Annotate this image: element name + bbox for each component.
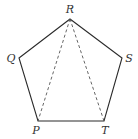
pentagon-diagram: R S T P Q <box>0 0 138 139</box>
vertex-label-R: R <box>65 3 74 16</box>
pentagon-outline <box>19 19 122 121</box>
vertex-label-P: P <box>31 124 40 137</box>
vertex-label-Q: Q <box>6 52 15 65</box>
vertex-label-S: S <box>125 52 133 65</box>
diagonal-RP <box>38 19 70 121</box>
vertex-label-T: T <box>101 124 110 137</box>
diagonal-RT <box>70 19 104 121</box>
diagram-canvas: R S T P Q <box>0 0 138 139</box>
